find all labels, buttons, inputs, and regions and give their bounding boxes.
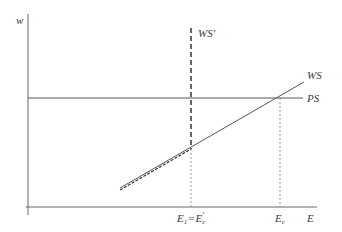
ec-label: Ec [274,212,286,226]
y-axis-label: w [16,14,24,26]
ws-prime-label: WS' [198,27,216,39]
ws-label: WS [307,69,322,81]
ps-label: PS [306,92,320,104]
x-axis-label: E [306,212,314,224]
ws-prime-diagonal [120,149,191,190]
e1-equals-ec-prime-label: E1=Ec' [176,211,206,226]
labor-market-diagram: w E WS' WS PS E1=Ec' Ec [0,0,342,232]
